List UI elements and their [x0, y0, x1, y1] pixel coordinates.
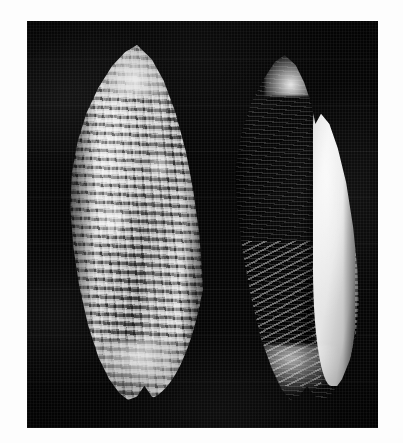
photo-vignette	[27, 21, 378, 428]
photograph	[27, 21, 378, 428]
photo-page	[0, 0, 403, 443]
